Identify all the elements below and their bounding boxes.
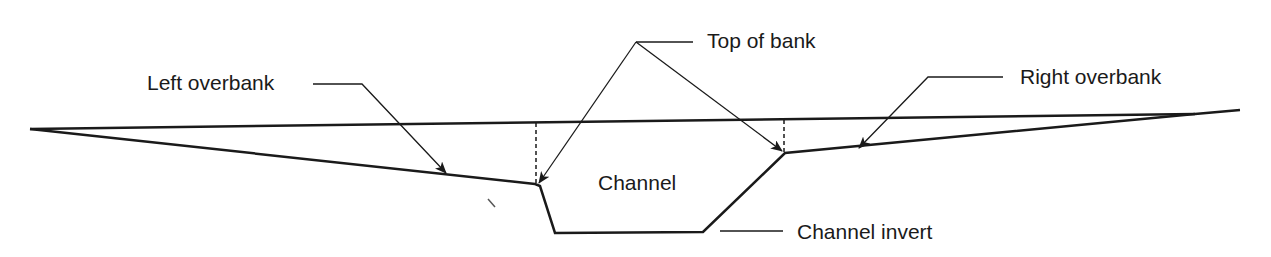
leader-left-overbank	[313, 84, 446, 173]
scan-artifact-mark	[488, 199, 495, 207]
label-right-overbank: Right overbank	[1020, 65, 1162, 88]
label-channel-invert: Channel invert	[797, 220, 933, 243]
label-channel: Channel	[598, 171, 676, 194]
label-top-of-bank: Top of bank	[707, 29, 816, 52]
water-surface-line	[30, 114, 1195, 129]
label-left-overbank: Left overbank	[147, 71, 275, 94]
channel-cross-section-diagram: Left overbank Top of bank Right overbank…	[0, 0, 1271, 257]
leader-top-of-bank-right	[636, 42, 782, 151]
leader-top-of-bank-left	[539, 42, 636, 183]
leader-right-overbank	[859, 77, 1003, 148]
